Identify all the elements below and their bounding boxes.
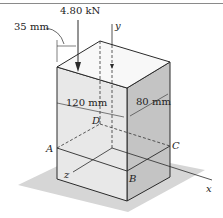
block-diagram: 4.80 kN 35 mm 120 mm 80 mm y D A C B z x [0,0,223,218]
front-face [57,67,127,201]
point-C-label: C [172,140,180,151]
dim-80-label: 80 mm [136,96,171,107]
point-D-label: D [91,115,100,126]
load-label: 4.80 kN [60,5,101,16]
point-B-label: B [128,173,136,184]
dim-35-label: 35 mm [14,21,49,32]
z-axis-label: z [63,169,70,180]
dim-120-label: 120 mm [66,97,108,108]
diagram-frame: 4.80 kN 35 mm 120 mm 80 mm y D A C B z x [0,0,223,218]
x-axis-label: x [206,183,212,194]
point-A-label: A [45,143,53,154]
y-axis-label: y [114,20,121,31]
